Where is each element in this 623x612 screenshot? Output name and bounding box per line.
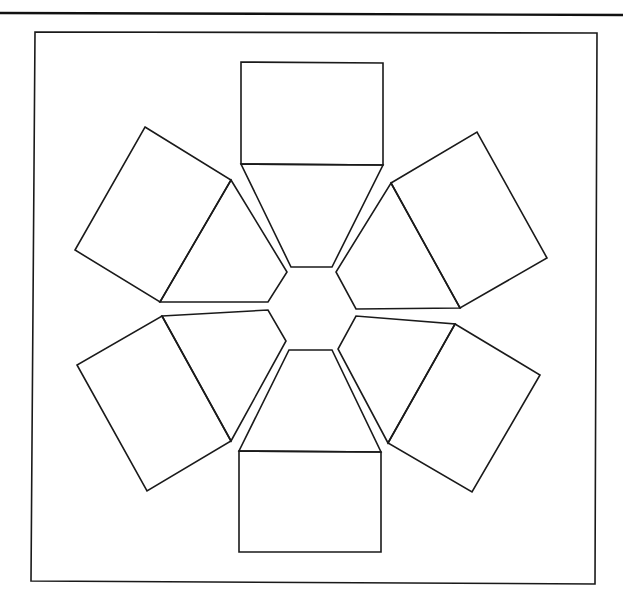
rectangle-lower-left: [77, 316, 231, 491]
rectangles-group: [75, 62, 547, 552]
trapezoid-top: [241, 164, 383, 267]
trapezoid-upper-left: [160, 180, 287, 302]
top-rule-line: [0, 13, 623, 15]
diagram-canvas: [0, 0, 623, 612]
trapezoid-lower-right: [338, 316, 455, 443]
rectangle-bottom: [239, 451, 381, 552]
trapezoids-group: [160, 164, 460, 452]
rectangle-lower-right: [388, 324, 540, 492]
rectangle-top: [241, 62, 383, 165]
rectangle-upper-right: [391, 132, 547, 308]
square-frame: [31, 32, 597, 584]
rectangle-upper-left: [75, 127, 231, 302]
trapezoid-upper-right: [336, 183, 460, 309]
trapezoid-lower-left: [162, 310, 286, 441]
trapezoid-bottom: [239, 350, 381, 452]
